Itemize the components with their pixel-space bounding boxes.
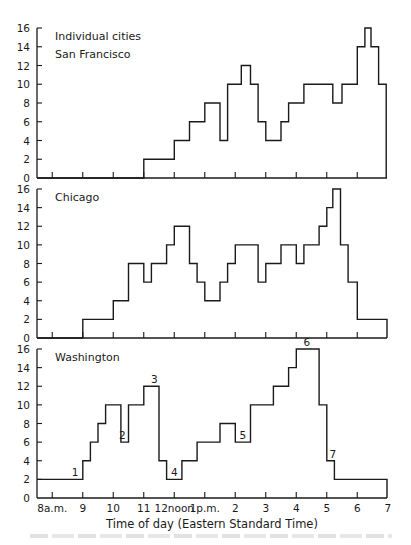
panel-city-label: Chicago	[55, 191, 99, 204]
annotation-label-4: 4	[171, 466, 178, 478]
x-tick-label: 11	[137, 502, 150, 514]
y-tick-label: 10	[17, 239, 30, 251]
chart-figure: 0246810121416Individual citiesSan Franci…	[0, 0, 411, 545]
annotation-label-5: 5	[240, 429, 247, 441]
y-tick-label: 2	[23, 153, 30, 165]
y-tick-label: 12	[17, 60, 30, 72]
x-tick-label: 2	[232, 502, 239, 514]
y-tick-label: 6	[23, 436, 30, 448]
y-tick-label: 6	[23, 116, 30, 128]
annotation-label-1: 1	[72, 466, 79, 478]
y-tick-label: 0	[23, 492, 30, 504]
y-tick-label: 12	[17, 220, 30, 232]
y-tick-label: 16	[17, 343, 31, 355]
y-tick-label: 8	[23, 258, 30, 270]
panel-city-label: Washington	[55, 351, 120, 364]
y-tick-label: 14	[17, 202, 31, 214]
y-tick-label: 8	[23, 418, 30, 430]
y-tick-label: 16	[17, 183, 31, 195]
y-tick-label: 4	[23, 455, 30, 467]
x-tick-label: 12noon	[154, 502, 194, 514]
chart-title: Individual cities	[55, 30, 141, 43]
y-tick-label: 14	[17, 41, 31, 53]
y-tick-label: 8	[23, 97, 30, 109]
y-tick-label: 4	[23, 135, 30, 147]
panel-san-francisco: 0246810121416Individual citiesSan Franci…	[17, 22, 387, 184]
step-series	[37, 349, 387, 498]
panel-city-label: San Francisco	[55, 48, 131, 61]
x-tick-label: 9	[79, 502, 86, 514]
y-tick-label: 14	[17, 362, 31, 374]
x-tick-label: 1p.m.	[190, 502, 220, 514]
panel-washington: 0246810121416Washington1234567	[17, 336, 387, 504]
x-axis-title: Time of day (Eastern Standard Time)	[105, 517, 318, 531]
figure-caption-cropped	[30, 534, 392, 538]
x-tick-label: 10	[107, 502, 120, 514]
panel-chicago: 0246810121416Chicago	[17, 183, 387, 344]
y-tick-label: 10	[17, 399, 30, 411]
y-tick-label: 2	[23, 473, 30, 485]
annotation-label-2: 2	[119, 429, 126, 441]
x-tick-label: 7	[384, 502, 391, 514]
step-series	[37, 189, 387, 338]
y-tick-label: 12	[17, 380, 30, 392]
y-tick-label: 6	[23, 276, 30, 288]
annotation-label-6: 6	[304, 336, 311, 348]
y-tick-label: 4	[23, 295, 30, 307]
x-tick-label: 5	[323, 502, 330, 514]
annotation-label-7: 7	[330, 448, 337, 460]
x-axis-tick-labels: 8a.m.9101112noon1p.m.234567	[37, 502, 391, 514]
x-tick-label: 3	[262, 502, 269, 514]
x-tick-label: 4	[293, 502, 300, 514]
x-tick-label: 8a.m.	[37, 502, 67, 514]
x-tick-label: 6	[354, 502, 361, 514]
y-tick-label: 2	[23, 313, 30, 325]
y-tick-label: 10	[17, 78, 30, 90]
annotation-label-3: 3	[151, 373, 158, 385]
y-tick-label: 16	[17, 22, 31, 34]
